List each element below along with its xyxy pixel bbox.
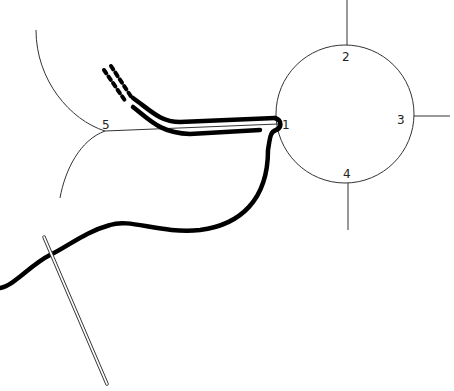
needle-icon	[44, 237, 107, 384]
thread-loop	[0, 118, 280, 288]
stitch-diagram: 1 2 3 4 5	[0, 0, 454, 391]
arc-upper-left	[36, 30, 105, 131]
arc-lower-left	[60, 131, 105, 198]
label-3: 3	[397, 113, 405, 127]
label-4: 4	[343, 167, 351, 181]
label-1: 1	[282, 118, 290, 132]
thread-upper	[133, 98, 275, 122]
label-5: 5	[102, 118, 110, 132]
label-2: 2	[342, 50, 350, 64]
stitch-circle	[276, 45, 414, 183]
